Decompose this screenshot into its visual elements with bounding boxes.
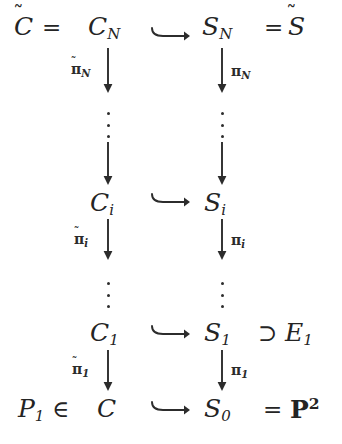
vdots-left-upper	[106, 112, 110, 138]
row-i-left-term: Ci	[90, 190, 114, 218]
row-0-left-prefix-subscript: 1	[35, 407, 45, 425]
row-1-right-extra-term: E1	[285, 320, 313, 348]
row-i-hook-arrow-icon	[148, 190, 194, 208]
row-0-right-subscript: 0	[221, 407, 231, 425]
vdots-right-upper	[220, 112, 224, 138]
map-left-i-label: ̃πi	[74, 232, 88, 249]
map-right-i-label: πi	[231, 233, 245, 250]
vdots-left-lower	[106, 282, 110, 308]
row-N-right-term: SN	[202, 14, 232, 42]
row-N-left-equals: =	[42, 16, 61, 39]
row-N-left-prefix: ̃C	[14, 14, 33, 39]
row-0-projective-plane: P2	[290, 396, 320, 422]
row-1-right-term: S1	[204, 320, 231, 348]
row-N-right-suffix: ̃S	[288, 14, 305, 39]
vdots-right-lower	[220, 282, 224, 308]
map-left-1-label: ̃π1	[72, 362, 89, 379]
map-left-upper-continuation-arrow-icon	[101, 142, 115, 188]
row-1-right-subscript: 1	[221, 331, 231, 349]
map-left-N-label: ̃πN	[71, 62, 90, 79]
row-0-left-term: C	[97, 396, 116, 424]
map-right-upper-continuation-arrow-icon	[215, 142, 229, 188]
map-right-1-arrow-icon	[215, 350, 229, 394]
row-N-hook-arrow-icon	[148, 24, 194, 42]
commutative-diagram: ̃C = CN SN = ̃S ̃πN πN	[0, 0, 342, 444]
map-left-i-arrow-icon	[101, 219, 115, 263]
row-1-supset-symbol: ⊃	[258, 322, 277, 345]
row-0-left-prefix-term: P1	[18, 396, 44, 424]
map-left-1-arrow-icon	[101, 350, 115, 394]
row-1-left-term: C1	[90, 320, 119, 348]
row-1-hook-arrow-icon	[148, 322, 194, 340]
map-right-1-label: π1	[231, 363, 248, 380]
row-N-right-equals: =	[264, 16, 283, 39]
row-0-element-of-symbol: ∈	[52, 398, 69, 421]
map-left-N-arrow-icon	[101, 48, 115, 96]
row-1-right-extra-subscript: 1	[303, 331, 313, 349]
map-right-N-label: πN	[231, 64, 250, 81]
row-0-hook-arrow-icon	[148, 398, 194, 416]
map-right-N-arrow-icon	[215, 48, 229, 96]
row-0-projective-plane-exponent: 2	[309, 394, 320, 413]
row-i-right-term: Si	[204, 190, 226, 218]
row-i-right-subscript: i	[221, 201, 226, 219]
row-1-left-subscript: 1	[109, 331, 119, 349]
row-N-right-subscript: N	[219, 25, 232, 43]
row-i-left-subscript: i	[109, 201, 114, 219]
row-0-right-equals: =	[263, 398, 282, 421]
row-0-right-term: S0	[204, 396, 231, 424]
row-N-left-subscript: N	[107, 25, 120, 43]
map-right-i-arrow-icon	[215, 219, 229, 263]
row-N-left-term: CN	[88, 14, 120, 42]
